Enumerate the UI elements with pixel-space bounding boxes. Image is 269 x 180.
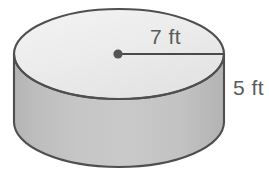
cylinder-figure: 7 ft 5 ft — [0, 0, 269, 180]
cylinder-diagram-svg: 7 ft 5 ft — [0, 0, 269, 180]
center-point-dot — [113, 49, 122, 58]
height-dimension-label: 5 ft — [233, 76, 264, 99]
radius-dimension-label: 7 ft — [150, 25, 181, 48]
